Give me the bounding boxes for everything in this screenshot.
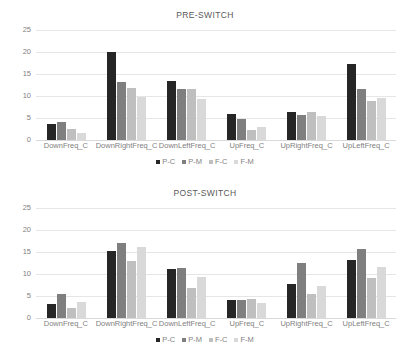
x-axis-labels: DownFreq_CDownRightFreq_CDownLeftFreq_CU… [36, 320, 396, 328]
bar-group [156, 30, 216, 140]
bar-group [336, 208, 396, 318]
x-axis-tick-label: DownFreq_C [36, 142, 96, 150]
y-axis-tick-label: 10 [23, 92, 31, 100]
legend-swatch-icon [234, 160, 238, 164]
x-axis-tick-label: DownLeftFreq_C [157, 320, 217, 328]
bar [107, 251, 116, 318]
bar [77, 302, 86, 318]
legend-item: P-M [182, 336, 202, 344]
y-axis-tick-label: 15 [23, 70, 31, 78]
bar-group [96, 30, 156, 140]
bar [227, 114, 236, 140]
legend-item: F-M [234, 336, 253, 344]
plot-area: 2520151050 [36, 208, 396, 318]
legend: P-CP-MF-CF-M [0, 336, 410, 344]
legend-item: F-C [209, 158, 228, 166]
chart-title: PRE-SWITCH [0, 10, 410, 20]
bar [77, 133, 86, 140]
plot-area: 2520151050 [36, 30, 396, 140]
legend: P-CP-MF-CF-M [0, 158, 410, 166]
bar-group [96, 208, 156, 318]
bar [237, 300, 246, 318]
legend-item-label: F-M [240, 336, 253, 344]
chart-post-switch: POST-SWITCH2520151050DownFreq_CDownRight… [0, 178, 410, 356]
x-axis-tick-label: UpFreq_C [217, 142, 277, 150]
bar-group [36, 208, 96, 318]
bar [257, 303, 266, 318]
legend-swatch-icon [234, 338, 238, 342]
bar [137, 247, 146, 318]
y-axis-tick-label: 25 [23, 204, 31, 212]
bar [317, 116, 326, 140]
x-axis-labels: DownFreq_CDownRightFreq_CDownLeftFreq_CU… [36, 142, 396, 150]
x-axis-tick-label: UpRightFreq_C [277, 320, 337, 328]
x-axis-tick-label: DownFreq_C [36, 320, 96, 328]
x-axis-tick-label: DownRightFreq_C [96, 142, 158, 150]
bar [347, 260, 356, 318]
legend-swatch-icon [209, 338, 213, 342]
y-axis-tick-label: 15 [23, 248, 31, 256]
bar [127, 88, 136, 140]
legend-item-label: P-M [188, 336, 202, 344]
legend-item-label: F-C [215, 336, 228, 344]
bar [197, 99, 206, 140]
bar [367, 278, 376, 318]
figure-root: PRE-SWITCH2520151050DownFreq_CDownRightF… [0, 0, 410, 356]
gridline [36, 140, 396, 141]
bar [287, 284, 296, 318]
bar [247, 130, 256, 140]
legend-item: P-M [182, 158, 202, 166]
bar [167, 81, 176, 140]
legend-item: F-M [234, 158, 253, 166]
bar [357, 249, 366, 318]
y-axis-tick-label: 5 [27, 292, 31, 300]
y-axis-tick-label: 0 [27, 314, 31, 322]
bar [297, 115, 306, 140]
legend-item-label: P-C [162, 336, 175, 344]
bar [307, 112, 316, 140]
legend-item-label: F-M [240, 158, 253, 166]
bar [187, 89, 196, 140]
x-axis-tick-label: DownLeftFreq_C [157, 142, 217, 150]
bar [67, 308, 76, 318]
bar [167, 269, 176, 318]
y-axis-tick-label: 20 [23, 48, 31, 56]
legend-swatch-icon [156, 160, 160, 164]
bar-groups [36, 208, 396, 318]
x-axis-tick-label: DownRightFreq_C [96, 320, 158, 328]
chart-title: POST-SWITCH [0, 188, 410, 198]
legend-swatch-icon [182, 160, 186, 164]
legend-item-label: P-M [188, 158, 202, 166]
bar-group [336, 30, 396, 140]
y-axis-tick-label: 0 [27, 136, 31, 144]
bar [117, 82, 126, 140]
gridline [36, 318, 396, 319]
legend-swatch-icon [182, 338, 186, 342]
bar [57, 294, 66, 318]
x-axis-tick-label: UpFreq_C [217, 320, 277, 328]
bar [107, 52, 116, 140]
bar [297, 263, 306, 318]
bar [287, 112, 296, 140]
bar [357, 89, 366, 140]
bar [347, 64, 356, 140]
bar [307, 294, 316, 318]
legend-swatch-icon [209, 160, 213, 164]
x-axis-tick-label: UpLeftFreq_C [336, 320, 396, 328]
bar-group [36, 30, 96, 140]
legend-item: P-C [156, 158, 175, 166]
legend-item: P-C [156, 336, 175, 344]
bar [247, 299, 256, 318]
bar-group [276, 30, 336, 140]
bar [197, 277, 206, 318]
bar [57, 122, 66, 140]
bar [47, 124, 56, 140]
bar-group [216, 30, 276, 140]
y-axis-tick-label: 20 [23, 226, 31, 234]
bar-group [276, 208, 336, 318]
bar [177, 89, 186, 140]
y-axis-tick-label: 5 [27, 114, 31, 122]
legend-item-label: F-C [215, 158, 228, 166]
bar [177, 268, 186, 318]
bar [127, 261, 136, 318]
